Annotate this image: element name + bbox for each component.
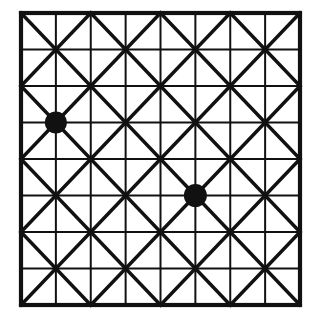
node-marker-node-5-5[interactable] <box>184 184 207 207</box>
node-marker-node-1-3[interactable] <box>45 112 67 134</box>
lattice-diagram <box>0 0 316 328</box>
figure-root: Square lattice with diagonals and two ma… <box>0 0 316 328</box>
